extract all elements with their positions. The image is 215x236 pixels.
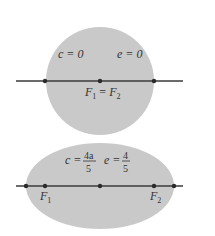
- circle-figure: c = 0 e = 0 F1 = F2: [16, 27, 183, 135]
- svg-text:e =: e =: [104, 153, 120, 167]
- e-value-label: e = 0: [117, 47, 142, 61]
- c-value-label: c = 0: [58, 47, 83, 61]
- focus1-point: [43, 184, 47, 188]
- focus2-point: [152, 184, 156, 188]
- svg-text:4a: 4a: [84, 150, 94, 161]
- ellipse-figure: c = 4a 5 e = 4 5 F1 F2: [16, 143, 183, 229]
- vertex-left-point: [24, 184, 28, 188]
- focus-center-point: [98, 79, 102, 83]
- svg-text:c =: c =: [65, 153, 81, 167]
- svg-text:5: 5: [123, 163, 128, 174]
- svg-text:4: 4: [123, 150, 128, 161]
- focus-label: F1 = F2: [84, 85, 120, 101]
- vertex-right-point: [152, 79, 156, 83]
- vertex-right-point: [172, 184, 176, 188]
- svg-text:5: 5: [86, 163, 91, 174]
- center-point: [98, 184, 102, 188]
- eccentricity-diagram: c = 0 e = 0 F1 = F2 c = 4a 5 e = 4 5 F1 …: [0, 0, 215, 236]
- vertex-left-point: [43, 79, 47, 83]
